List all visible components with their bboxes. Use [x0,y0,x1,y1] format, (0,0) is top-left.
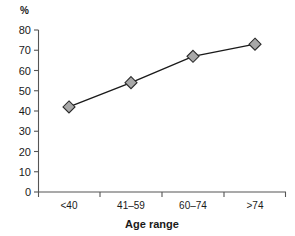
chart-canvas: % 80 70 60 50 40 30 20 10 0 [0,0,295,236]
series-line-path [69,44,255,107]
y-tick-label-60: 60 [19,65,31,77]
x-axis-title: Age range [125,218,179,230]
x-tick-label-0: <40 [61,200,78,211]
y-tick-label-70: 70 [19,44,31,56]
x-tick-label-1: 41–59 [117,200,145,211]
data-point-2 [187,50,199,62]
line-chart-figure: % 80 70 60 50 40 30 20 10 0 [0,0,295,236]
data-point-0 [63,101,75,113]
y-tick-label-40: 40 [19,105,31,117]
x-tick-label-2: 60–74 [179,200,207,211]
data-point-3 [249,38,261,50]
y-tick-label-50: 50 [19,85,31,97]
y-tick-label-80: 80 [19,24,31,36]
y-tick-label-0: 0 [25,186,31,198]
x-axis-ticks [39,192,286,197]
y-tick-label-10: 10 [19,166,31,178]
y-tick-label-20: 20 [19,146,31,158]
y-tick-label-30: 30 [19,125,31,137]
data-point-1 [125,77,137,89]
y-axis-unit-label: % [20,5,29,16]
y-axis-ticks [34,30,39,192]
x-tick-label-3: >74 [247,200,264,211]
